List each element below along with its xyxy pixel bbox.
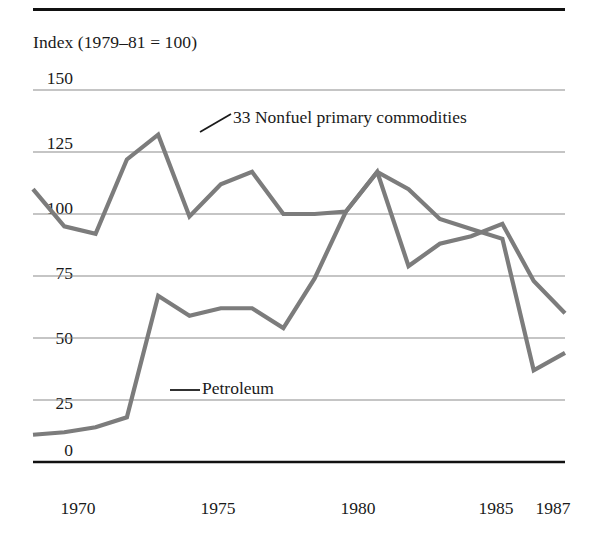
chart-figure: Index (1979–81 = 100) 150 125 100 75 50 …	[0, 0, 596, 547]
plot-area	[0, 0, 596, 547]
series-line-petroleum	[33, 172, 565, 435]
series-line-nonfuel-commodities	[33, 135, 565, 314]
annotation-leader-lines	[170, 114, 231, 390]
gridlines	[33, 90, 565, 400]
series-lines	[33, 135, 565, 435]
commodities-leader-line	[200, 114, 231, 132]
